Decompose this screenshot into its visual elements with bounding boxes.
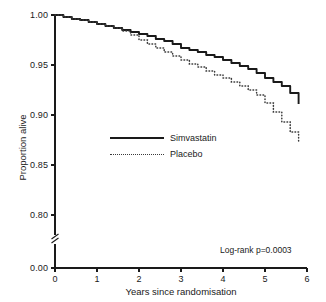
y-tick-label: 0.90 <box>8 111 48 120</box>
y-axis-title: Proportion alive <box>17 88 28 208</box>
legend-label-placebo: Placebo <box>170 149 203 159</box>
legend-line-solid-icon <box>108 134 164 142</box>
x-tick-label: 0 <box>52 275 57 284</box>
legend-item-placebo: Placebo <box>108 146 258 162</box>
x-tick-label: 4 <box>220 275 225 284</box>
series-group <box>55 15 299 143</box>
x-tick-label: 2 <box>136 275 141 284</box>
log-rank-annotation: Log-rank p=0.0003 <box>220 245 292 255</box>
x-axis-title: Years since randomisation <box>55 286 307 297</box>
survival-chart-figure: 0.000.800.850.900.951.00 0123456 Proport… <box>0 0 326 302</box>
x-tick-label: 3 <box>178 275 183 284</box>
y-tick-label: 1.00 <box>8 11 48 20</box>
x-tick-label: 5 <box>262 275 267 284</box>
chart-legend: Simvastatin Placebo <box>108 130 258 162</box>
y-tick-label: 0.80 <box>8 211 48 220</box>
series-line-placebo <box>55 15 299 143</box>
legend-item-simvastatin: Simvastatin <box>108 130 258 146</box>
legend-line-dotted-icon <box>108 150 164 158</box>
x-tick-label: 6 <box>304 275 309 284</box>
series-line-simvastatin <box>55 15 299 104</box>
y-tick-label: 0.00 <box>8 264 48 273</box>
legend-label-simvastatin: Simvastatin <box>170 133 217 143</box>
x-tick-label: 1 <box>94 275 99 284</box>
y-tick-label: 0.85 <box>8 161 48 170</box>
y-tick-label: 0.95 <box>8 61 48 70</box>
